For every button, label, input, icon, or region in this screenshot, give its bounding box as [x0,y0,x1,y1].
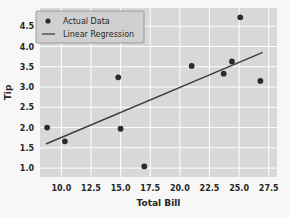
y-tick-label: 2.5 [20,103,35,112]
y-tick-label: 4.0 [20,43,35,52]
data-point [237,14,243,20]
chart-legend: Actual Data Linear Regression [36,11,144,43]
x-tick-label: 27.5 [259,184,279,193]
data-point [141,164,147,170]
y-tick-label: 3.5 [20,63,35,72]
x-tick-label: 25.0 [229,184,249,193]
x-tick-label: 22.5 [200,184,220,193]
chart-figure: 10.012.515.017.520.022.525.027.5 1.01.52… [0,0,289,218]
data-point [229,59,235,65]
data-point [62,138,68,144]
legend-label-actual-data: Actual Data [63,17,110,26]
y-tick-label: 1.0 [20,164,35,173]
legend-label-linear-regression: Linear Regression [63,30,134,39]
y-tick-label: 3.0 [20,83,35,92]
x-tick-label: 12.5 [81,184,101,193]
x-axis-title: Total Bill [137,198,181,208]
y-tick-label: 2.0 [20,124,35,133]
data-point [115,74,121,80]
x-tick-label: 10.0 [51,184,71,193]
data-point [118,126,124,132]
scatter-plot: 10.012.515.017.520.022.525.027.5 1.01.52… [0,0,289,218]
data-point [258,78,264,84]
x-tick-label: 20.0 [170,184,190,193]
data-point [189,63,195,69]
data-point [44,125,50,131]
y-tick-label: 1.5 [20,144,35,153]
x-tick-label: 17.5 [140,184,160,193]
y-axis-title: Tip [3,84,13,100]
x-tick-label: 15.0 [111,184,131,193]
data-point [221,71,227,77]
y-tick-label: 4.5 [20,22,35,31]
legend-marker-icon [45,18,50,23]
